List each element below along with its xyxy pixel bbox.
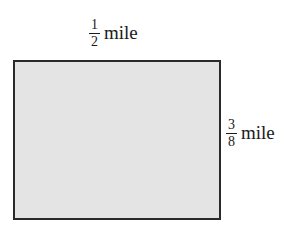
rectangle-shape	[13, 60, 221, 220]
width-numerator: 1	[90, 18, 99, 31]
height-unit: mile	[241, 123, 275, 143]
width-fraction: 1 2	[89, 18, 100, 48]
width-unit: mile	[104, 23, 138, 43]
height-label: 3 8 mile	[226, 118, 275, 148]
height-numerator: 3	[227, 118, 236, 131]
height-fraction: 3 8	[226, 118, 237, 148]
width-label: 1 2 mile	[89, 18, 138, 48]
width-denominator: 2	[90, 35, 99, 48]
height-denominator: 8	[227, 135, 236, 148]
